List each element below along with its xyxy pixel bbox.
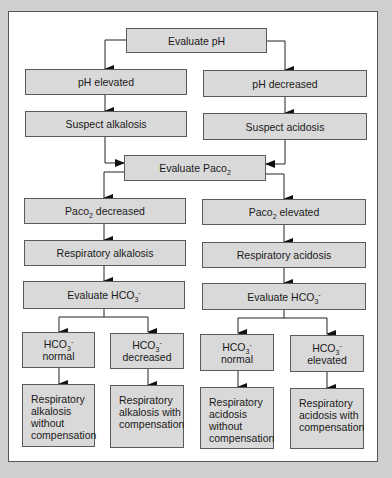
node-suspect-alkalosis: Suspect alkalosis [25, 111, 187, 137]
label-line: without [31, 417, 64, 429]
label-line: compensation [299, 421, 364, 433]
label-line: Respiratory [31, 393, 85, 405]
node-label: pH elevated [78, 76, 134, 88]
node-evaluate-hco3-left: Evaluate HCO3- [23, 281, 185, 309]
label-line1: HCO3- [44, 338, 74, 350]
label-sub: 3 [314, 298, 318, 305]
label-line: alkalosis [31, 405, 71, 417]
label-line: without [209, 420, 242, 432]
node-evaluate-paco2: Evaluate Paco2 [124, 155, 266, 181]
node-result-acidosis-with-compensation: Respiratory acidosis with compensation [290, 388, 364, 449]
label-sup: - [138, 289, 140, 296]
node-label: Evaluate Paco2 [159, 162, 231, 174]
node-label: Paco2 elevated [249, 206, 319, 218]
label-state: decreased [122, 351, 171, 363]
node-ph-decreased: pH decreased [203, 70, 367, 97]
label-line: acidosis with [299, 409, 359, 421]
node-result-alkalosis-without-compensation: Respiratory alkalosis without compensati… [22, 384, 95, 447]
node-hco3-normal-right: HCO3-normal [200, 334, 274, 371]
label-sup: - [159, 339, 161, 346]
label-line: compensation [31, 429, 96, 441]
label-state: normal [221, 353, 253, 365]
label-sub: 2 [227, 169, 231, 176]
node-hco3-normal-left: HCO3-normal [22, 332, 95, 368]
label-line: compensation [119, 418, 184, 430]
label-line1: HCO3- [222, 341, 252, 353]
node-result-acidosis-without-compensation: Respiratory acidosis without compensatio… [200, 387, 274, 449]
label-line: alkalosis with [119, 406, 181, 418]
label-line: compensation [209, 432, 274, 444]
node-label: Evaluate pH [168, 35, 225, 47]
label-main: HCO [222, 341, 245, 353]
node-respiratory-acidosis: Respiratory acidosis [202, 242, 366, 268]
node-label: Suspect acidosis [246, 121, 325, 133]
label-sub: 3 [134, 296, 138, 303]
label-sup: - [71, 338, 73, 345]
label-sup: - [339, 341, 341, 348]
label-pre: Paco [249, 206, 273, 218]
node-paco2-decreased: Paco2 decreased [24, 198, 186, 224]
label-line1: HCO3- [312, 342, 342, 354]
label-sup: - [318, 290, 320, 297]
label-line: acidosis [209, 408, 247, 420]
node-ph-elevated: pH elevated [25, 69, 187, 95]
node-label: Respiratory alkalosis [57, 247, 154, 259]
node-evaluate-hco3-right: Evaluate HCO3- [202, 283, 366, 310]
label-state: elevated [307, 354, 347, 366]
label-main: Evaluate HCO [247, 291, 314, 303]
label-post: elevated [277, 206, 320, 218]
node-label: Evaluate HCO3- [247, 291, 320, 303]
node-label: Paco2 decreased [65, 205, 145, 217]
label-post: decreased [93, 205, 145, 217]
label-main: Evaluate Paco [159, 162, 227, 174]
label-state: normal [42, 350, 74, 362]
node-label: Evaluate HCO3- [67, 289, 140, 301]
node-paco2-elevated: Paco2 elevated [202, 199, 366, 225]
node-label: Suspect alkalosis [65, 118, 146, 130]
label-pre: Paco [65, 205, 89, 217]
node-label: pH decreased [252, 78, 317, 90]
label-main: HCO [132, 339, 155, 351]
node-label: Respiratory acidosis [237, 249, 332, 261]
label-main: HCO [44, 338, 67, 350]
label-main: Evaluate HCO [67, 289, 134, 301]
node-suspect-acidosis: Suspect acidosis [203, 113, 367, 140]
node-result-alkalosis-with-compensation: Respiratory alkalosis with compensation [110, 385, 184, 448]
label-main: HCO [312, 342, 335, 354]
label-sup: - [249, 340, 251, 347]
node-evaluate-ph: Evaluate pH [126, 28, 267, 53]
label-line: Respiratory [299, 397, 353, 409]
label-line: Respiratory [209, 396, 263, 408]
node-hco3-elevated: HCO3-elevated [290, 335, 364, 372]
label-line: Respiratory [119, 394, 173, 406]
label-line1: HCO3- [132, 339, 162, 351]
node-respiratory-alkalosis: Respiratory alkalosis [24, 240, 186, 266]
node-hco3-decreased: HCO3-decreased [110, 333, 184, 369]
